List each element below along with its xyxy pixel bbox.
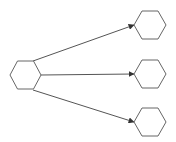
node-target-bottom-hexagon [134,108,166,136]
edge-source-to-middle [41,74,134,75]
node-target-top-hexagon [134,11,166,39]
diagram-canvas [0,0,176,142]
edge-source-to-top [33,25,134,61]
node-target-middle-hexagon [134,60,166,88]
node-source-hexagon [10,61,41,89]
edge-source-to-bottom [33,90,134,122]
